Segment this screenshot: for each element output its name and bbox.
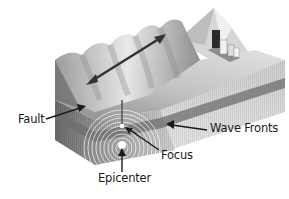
earthquake-diagram: Fault Wave Fronts Focus Epicenter [0, 0, 289, 199]
label-epicenter: Epicenter [98, 171, 151, 185]
epicenter-point [118, 141, 126, 149]
focus-point [120, 124, 124, 128]
label-wave-fronts: Wave Fronts [210, 121, 278, 135]
label-focus: Focus [161, 148, 193, 162]
label-fault: Fault [18, 112, 45, 126]
